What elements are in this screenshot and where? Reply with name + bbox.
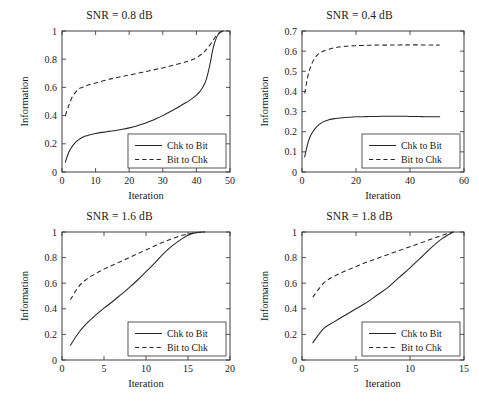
- x-tick-label: 0: [60, 175, 65, 186]
- x-tick-label: 5: [354, 363, 359, 374]
- y-tick-label: 0.8: [45, 252, 58, 263]
- chart-panel-2: SNR = 0.4 dB020406000.10.20.30.40.50.60.…: [240, 0, 479, 202]
- legend-label-1: Chk to Bit: [167, 140, 208, 151]
- y-axis-title: Information: [19, 270, 30, 321]
- x-tick-label: 10: [141, 363, 151, 374]
- plot-area: 020406000.10.20.30.40.50.60.7IterationIn…: [240, 0, 479, 202]
- chart-panel-3: SNR = 1.6 dB0510152000.20.40.60.81Iterat…: [0, 201, 239, 403]
- series-line-2: [70, 232, 204, 300]
- y-tick-label: 0.2: [285, 329, 298, 340]
- legend-label-1: Chk to Bit: [401, 328, 442, 339]
- plot-area: 0102030405000.20.40.60.81IterationInform…: [0, 0, 239, 202]
- x-tick-label: 40: [191, 175, 201, 186]
- y-tick-label: 0.7: [285, 26, 298, 37]
- x-tick-label: 15: [459, 363, 469, 374]
- x-axis-title: Iteration: [365, 378, 401, 389]
- y-tick-label: 1: [52, 26, 57, 37]
- y-tick-label: 0.6: [45, 82, 58, 93]
- y-axis-title: Information: [259, 76, 270, 127]
- series-line-2: [305, 45, 440, 94]
- y-tick-label: 0.3: [285, 106, 298, 117]
- series-line-2: [65, 31, 223, 116]
- y-tick-label: 0: [292, 167, 297, 178]
- x-tick-label: 0: [60, 363, 65, 374]
- y-tick-label: 0.6: [45, 278, 58, 289]
- y-tick-label: 0.4: [285, 303, 298, 314]
- y-tick-label: 1: [52, 227, 57, 238]
- x-tick-label: 60: [459, 175, 469, 186]
- y-tick-label: 0: [292, 355, 297, 366]
- legend-label-2: Bit to Chk: [401, 154, 442, 165]
- y-axis-title: Information: [259, 270, 270, 321]
- x-axis-title: Iteration: [365, 190, 401, 201]
- chart-panel-1: SNR = 0.8 dB0102030405000.20.40.60.81Ite…: [0, 0, 239, 202]
- x-tick-label: 50: [225, 175, 235, 186]
- x-tick-label: 0: [300, 363, 305, 374]
- x-tick-label: 0: [300, 175, 305, 186]
- x-axis-title: Iteration: [128, 378, 164, 389]
- x-tick-label: 40: [405, 175, 415, 186]
- y-tick-label: 0: [52, 167, 57, 178]
- plot-area: 0510152000.20.40.60.81IterationInformati…: [0, 201, 239, 403]
- y-tick-label: 0.8: [45, 54, 58, 65]
- legend: Chk to BitBit to Chk: [128, 322, 226, 356]
- legend-label-1: Chk to Bit: [401, 140, 442, 151]
- legend-label-2: Bit to Chk: [167, 154, 208, 165]
- x-tick-label: 15: [183, 363, 193, 374]
- y-tick-label: 0.2: [45, 138, 58, 149]
- legend-label-2: Bit to Chk: [401, 342, 442, 353]
- y-tick-label: 0.4: [45, 110, 58, 121]
- y-tick-label: 0.4: [285, 86, 298, 97]
- legend: Chk to BitBit to Chk: [362, 322, 460, 356]
- y-tick-label: 0.8: [285, 252, 298, 263]
- chart-panel-4: SNR = 1.8 dB05101500.20.40.60.81Iteratio…: [240, 201, 479, 403]
- y-tick-label: 1: [292, 227, 297, 238]
- y-tick-label: 0.6: [285, 46, 298, 57]
- y-tick-label: 0.1: [285, 146, 298, 157]
- legend: Chk to BitBit to Chk: [362, 134, 460, 168]
- y-tick-label: 0.4: [45, 303, 58, 314]
- x-axis-title: Iteration: [128, 190, 164, 201]
- y-axis-title: Information: [19, 76, 30, 127]
- y-tick-label: 0: [52, 355, 57, 366]
- x-tick-label: 20: [124, 175, 134, 186]
- y-tick-label: 0.5: [285, 66, 298, 77]
- x-tick-label: 10: [405, 363, 415, 374]
- legend-label-1: Chk to Bit: [167, 328, 208, 339]
- legend: Chk to BitBit to Chk: [128, 134, 226, 168]
- x-tick-label: 10: [91, 175, 101, 186]
- x-tick-label: 30: [158, 175, 168, 186]
- x-tick-label: 20: [351, 175, 361, 186]
- plot-area: 05101500.20.40.60.81IterationInformation…: [240, 201, 479, 403]
- y-tick-label: 0.2: [285, 126, 298, 137]
- exit-chart-figure: SNR = 0.8 dB0102030405000.20.40.60.81Ite…: [0, 0, 479, 405]
- x-tick-label: 20: [225, 363, 235, 374]
- y-tick-label: 0.2: [45, 329, 58, 340]
- y-tick-label: 0.6: [285, 278, 298, 289]
- series-line-2: [313, 232, 453, 297]
- legend-label-2: Bit to Chk: [167, 342, 208, 353]
- x-tick-label: 5: [102, 363, 107, 374]
